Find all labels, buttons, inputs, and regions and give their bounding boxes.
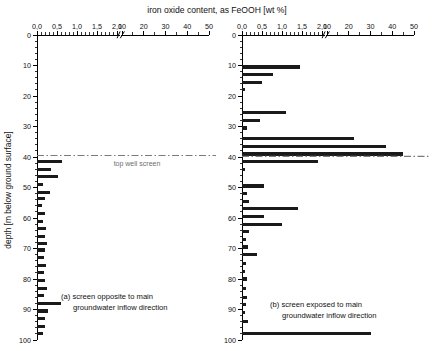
x-tick-label: 1,0 [277,22,287,31]
y-tick-label: 90 [228,305,236,314]
bar [242,81,262,84]
y-tick-label: 100 [224,336,236,345]
bar [37,332,43,335]
x-tick-label: 30 [162,22,170,31]
bar [37,264,46,267]
y-tick-label: 10 [23,61,31,70]
bar [242,207,298,210]
bar [242,277,247,280]
bar [37,294,44,297]
bar [242,145,386,148]
bar [242,230,249,233]
bar [242,253,257,256]
bar [242,296,247,299]
chart-svg: iron oxide content, as FeOOH [wt %]depth… [0,0,433,351]
bar [242,215,264,218]
y-axis-label: depth [m below ground surface] [3,131,13,248]
y-tick-label: 50 [23,183,31,192]
bar [37,317,45,320]
bar [242,332,371,335]
x-tick-label: 10 [118,22,126,31]
y-tick-label: 0 [232,31,236,40]
bar [242,152,403,155]
bar [37,325,45,328]
bar [37,279,45,282]
bar [242,320,248,323]
x-tick-label: 40 [388,22,396,31]
panel-caption-line2: groundwater inflow direction [73,303,168,312]
x-tick-label: 0,5 [257,22,267,31]
x-tick-label: 10 [323,22,331,31]
bar [242,262,246,265]
x-tick-label: 0,5 [52,22,62,31]
bar [242,137,354,140]
y-tick-label: 60 [228,214,236,223]
bar [37,235,45,238]
figure-container: iron oxide content, as FeOOH [wt %]depth… [0,0,433,351]
bar [37,204,42,207]
bar [37,227,46,230]
bar [242,270,245,273]
bar [37,183,43,186]
panel-caption-line1: (a) screen opposite to main [61,292,153,301]
bar [37,242,47,245]
panel-a: 0,00,51,01,52,01020304050010203040506070… [19,22,216,345]
x-tick-label: 50 [410,22,418,31]
y-tick-label: 40 [228,153,236,162]
panel-b: 0,00,51,01,52,01020304050010203040506070… [224,22,430,345]
y-tick-label: 20 [23,92,31,101]
x-tick-label: 20 [140,22,148,31]
y-tick-label: 30 [228,122,236,131]
bar [242,119,260,122]
x-tick-label: 0,0 [237,22,247,31]
bar [37,212,45,215]
bar [37,256,44,259]
x-tick-label: 1,0 [72,22,82,31]
bar [37,160,62,163]
y-tick-label: 80 [23,275,31,284]
x-tick-label: 1,5 [92,22,102,31]
y-tick-label: 70 [228,244,236,253]
y-tick-label: 10 [228,61,236,70]
x-tick-label: 0,0 [32,22,42,31]
bar [242,88,245,91]
bar [37,191,50,194]
y-tick-label: 20 [228,92,236,101]
bar [242,126,247,129]
x-tick-label: 20 [345,22,353,31]
bar [37,248,45,251]
bar [242,184,264,187]
x-tick-label: 1,5 [297,22,307,31]
x-tick-label: 30 [367,22,375,31]
y-tick-label: 40 [23,153,31,162]
y-tick-label: 70 [23,244,31,253]
bar [37,175,58,178]
bar [242,311,245,314]
bar [37,287,47,290]
y-tick-label: 80 [228,275,236,284]
y-tick-label: 100 [19,336,31,345]
bar [242,168,245,171]
bar [242,200,249,203]
y-tick-label: 50 [228,183,236,192]
y-tick-label: 60 [23,214,31,223]
panel-caption-line2: groundwater inflow direction [282,311,377,320]
bar [242,303,246,306]
top-well-screen-label: top well screen [114,160,161,168]
panel-caption-line1: (b) screen exposed to main [270,300,362,309]
bar [242,192,247,195]
bar [242,73,273,76]
bar [37,197,45,200]
y-tick-label: 0 [27,31,31,40]
bar [242,160,318,163]
bar [37,302,61,305]
bar [37,271,44,274]
bar [242,111,286,114]
bar [242,223,282,226]
bar [242,238,246,241]
bar [37,168,51,171]
x-tick-label: 40 [183,22,191,31]
x-tick-label: 50 [205,22,213,31]
bar [37,309,48,312]
bar [37,220,43,223]
